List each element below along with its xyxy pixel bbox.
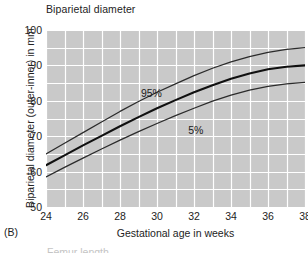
chart-title: Biparietal diameter (46, 3, 135, 15)
x-axis-label: Gestational age in weeks (46, 227, 305, 239)
x-axis-tick-labels: 2426283032343638 (46, 210, 305, 224)
y-tick-60: 60 (12, 166, 42, 178)
y-axis-tick-labels: 5060708090100 (10, 30, 42, 207)
annotation-95pct: 95% (141, 87, 162, 99)
x-tick-28: 28 (105, 210, 135, 222)
vertical-gridlines (47, 30, 306, 207)
y-tick-90: 90 (12, 59, 42, 71)
y-tick-80: 80 (12, 95, 42, 107)
x-tick-24: 24 (31, 210, 61, 222)
x-tick-26: 26 (68, 210, 98, 222)
clipped-next-figure-caption: Femur length (47, 246, 109, 253)
curve-5pct (46, 82, 305, 177)
figure-panel-b: Biparietal diameter Biparietal diameter … (0, 0, 308, 253)
annotation-5pct: 5% (188, 124, 203, 136)
x-tick-38: 38 (290, 210, 308, 222)
panel-label: (B) (4, 226, 18, 238)
horizontal-gridlines (46, 31, 305, 208)
x-tick-34: 34 (216, 210, 246, 222)
y-tick-70: 70 (12, 130, 42, 142)
y-tick-100: 100 (12, 24, 42, 36)
x-tick-32: 32 (179, 210, 209, 222)
x-tick-36: 36 (253, 210, 283, 222)
percentile-curves (46, 48, 305, 177)
x-tick-30: 30 (142, 210, 172, 222)
plot-area: 95%5% (46, 30, 305, 207)
growth-curves-svg (46, 30, 305, 207)
